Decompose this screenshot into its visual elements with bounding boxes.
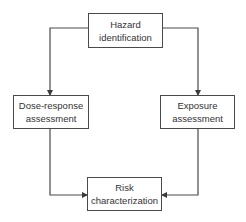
hazard-label-line1: Hazard: [110, 18, 141, 31]
dose-label-line2: assessment: [26, 112, 77, 125]
exposure-assessment-box: Exposure assessment: [160, 95, 235, 129]
risk-label-line2: characterization: [91, 194, 158, 207]
exposure-label-line1: Exposure: [177, 99, 217, 112]
exposure-label-line2: assessment: [172, 112, 223, 125]
arrow-hazard-to-dose: [50, 28, 88, 95]
arrow-dose-to-risk: [50, 129, 87, 195]
arrow-exposure-to-risk: [162, 129, 198, 195]
risk-characterization-box: Risk characterization: [87, 177, 162, 211]
hazard-label-line2: identification: [99, 31, 152, 44]
hazard-identification-box: Hazard identification: [88, 13, 163, 48]
arrow-hazard-to-exposure: [163, 28, 198, 95]
dose-response-assessment-box: Dose-response assessment: [13, 95, 89, 129]
risk-assessment-diagram: Hazard identification Dose-response asse…: [0, 0, 246, 222]
dose-label-line1: Dose-response: [19, 99, 83, 112]
risk-label-line1: Risk: [115, 181, 133, 194]
